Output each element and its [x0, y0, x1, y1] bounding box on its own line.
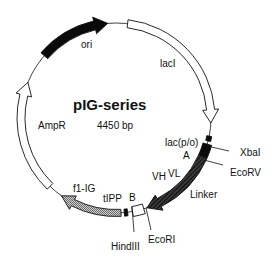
label-vl: VL [168, 168, 181, 179]
site-line-ecori [146, 208, 151, 230]
feature-vl-linker-vh [147, 155, 207, 210]
feature-ori [41, 17, 108, 58]
label-ampr: AmpR [38, 120, 66, 131]
feature-tipp [124, 209, 128, 216]
label-ecori: EcoRI [148, 234, 175, 245]
label-laci: lacI [160, 58, 176, 69]
plasmid-size: 4450 bp [97, 120, 134, 131]
plasmid-map: orilacIAmpRlac(p/o)AVLVHLinkerXbaIEcoRVf… [0, 0, 277, 264]
feature-lac-p-o- [206, 136, 212, 142]
feature-labels: orilacIAmpRlac(p/o)AVLVHLinkerXbaIEcoRVf… [38, 39, 261, 252]
label-linker: Linker [190, 189, 218, 200]
label-ecorv: EcoRV [230, 167, 261, 178]
label-tipp: tIPP [103, 193, 122, 204]
label-hindiii: HindIII [111, 241, 140, 252]
plasmid-title: pIG-series [73, 96, 146, 113]
label-f1-ig: f1-IG [73, 183, 95, 194]
feature-b [132, 204, 146, 216]
label-vh: VH [152, 171, 166, 182]
label-ori: ori [81, 39, 92, 50]
label-xbai: XbaI [240, 147, 261, 158]
label-lac-p-o-: lac(p/o) [165, 137, 198, 148]
label-b: B [129, 192, 136, 203]
plasmid-features [16, 17, 219, 216]
site-line-ecorv [204, 160, 223, 165]
feature-ampr [16, 82, 53, 189]
label-a: A [183, 150, 190, 161]
